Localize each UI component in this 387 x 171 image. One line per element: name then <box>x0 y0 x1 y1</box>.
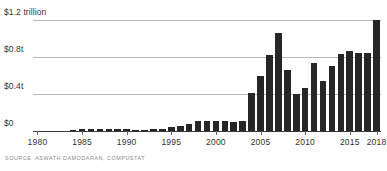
bar-2010 <box>302 88 309 131</box>
bar-2014 <box>338 54 345 131</box>
x-tick-label-2010: 2010 <box>295 137 315 147</box>
bar-2001 <box>222 121 229 131</box>
x-tick-2000 <box>216 131 217 135</box>
y-axis-label-2: $0.8t <box>4 45 23 54</box>
x-tick-label-2000: 2000 <box>206 137 226 147</box>
x-tick-2015 <box>350 131 351 135</box>
bar-1998 <box>195 121 202 131</box>
bar-2004 <box>248 93 255 131</box>
x-tick-label-2018: 2018 <box>367 137 387 147</box>
bar-2018 <box>373 20 380 131</box>
bar-2012 <box>320 81 327 131</box>
x-tick-1995 <box>171 131 172 135</box>
y-axis-label-3: $1.2 trillion <box>4 8 46 17</box>
x-tick-label-1985: 1985 <box>72 137 92 147</box>
bar-2016 <box>355 53 362 131</box>
bar-series <box>33 20 381 131</box>
y-axis-label-0: $0 <box>4 119 14 128</box>
x-tick-label-1990: 1990 <box>117 137 137 147</box>
bar-2002 <box>230 122 237 131</box>
x-tick-label-2005: 2005 <box>251 137 271 147</box>
bar-2003 <box>239 121 246 131</box>
bar-2017 <box>364 53 371 131</box>
x-tick-1990 <box>127 131 128 135</box>
x-tick-label-1980: 1980 <box>28 137 48 147</box>
x-tick-label-2015: 2015 <box>340 137 360 147</box>
bar-2007 <box>275 33 282 131</box>
bar-1997 <box>186 124 193 131</box>
x-tick-2005 <box>261 131 262 135</box>
bar-2013 <box>329 66 336 131</box>
bar-2009 <box>293 94 300 131</box>
bar-1999 <box>204 121 211 131</box>
bar-2000 <box>213 121 220 131</box>
source-note: SOURCE: ASWATH DAMODARAN, COMPUSTAT <box>5 155 145 162</box>
bar-2015 <box>346 51 353 131</box>
bar-2005 <box>257 76 264 132</box>
y-axis-label-1: $0.4t <box>4 82 23 91</box>
stock-buybacks-bar-chart: $1.2 trillion $0.8t $0.4t $0 19801985199… <box>0 0 387 171</box>
x-tick-2018 <box>377 131 378 135</box>
plot-area <box>33 20 381 131</box>
x-tick-1985 <box>82 131 83 135</box>
x-tick-2010 <box>305 131 306 135</box>
x-tick-1980 <box>37 131 38 135</box>
bar-2008 <box>284 70 291 131</box>
bar-2011 <box>311 63 318 131</box>
x-tick-label-1995: 1995 <box>161 137 181 147</box>
x-axis: 198019851990199520002005201020152018 <box>33 131 381 153</box>
bar-2006 <box>266 55 273 131</box>
